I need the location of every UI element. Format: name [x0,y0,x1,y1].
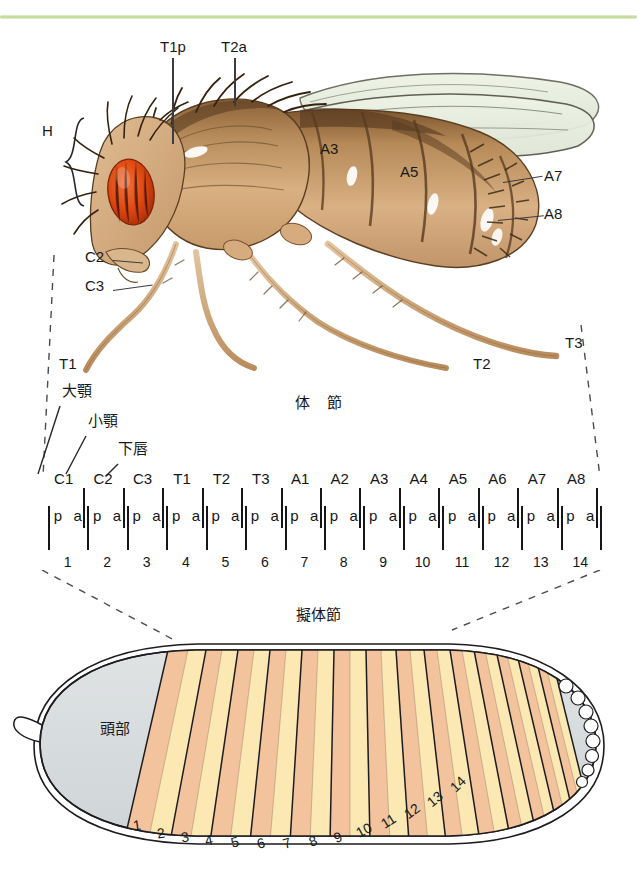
parasegment-number: 5 [213,554,237,570]
parasegment-number: 7 [292,554,316,570]
parasegment-boundary-tick [363,506,365,550]
embryo-parasegment-number: 14 [447,774,468,795]
embryo-parasegment-number: 7 [281,835,293,851]
segment-label-a4: A4 [399,470,438,487]
head-bracket-brace [62,116,88,212]
brace-icon [62,116,88,208]
parasegment-number: 11 [450,554,474,570]
parasegment-boundary-tick [127,506,129,550]
parasegment-boundary-tick [285,506,287,550]
parasegment-boundary-ticks [0,506,637,552]
embryo-parasegment-number: 4 [204,832,215,847]
embryo-parasegment-number: 13 [424,789,445,810]
segment-label-c3: C3 [123,470,162,487]
parasegment-number: 6 [253,554,277,570]
label-t2a: T2a [221,39,247,54]
segment-label-c1: C1 [44,470,83,487]
embryo-parasegment-number: 3 [180,829,190,844]
parasegment-boundary-tick [442,506,444,550]
parasegment-boundary-tick [403,506,405,550]
parasegment-boundary-tick [600,506,602,550]
segment-label-a8: A8 [557,470,596,487]
parasegment-number: 4 [174,554,198,570]
label-a8: A8 [544,206,562,221]
leader-t1p [172,58,174,144]
label-a3: A3 [320,141,338,156]
parasegment-number: 10 [411,554,435,570]
segment-label-t2: T2 [202,470,241,487]
top-accent-rule [0,15,637,19]
embryo-illustration: 頭部 1234567891011121314 [0,630,637,860]
parasegment-number: 1 [56,554,80,570]
segment-name-row: C1C2C3T1T2T3A1A2A3A4A5A6A7A8 [0,470,637,490]
parasegment-number: 8 [332,554,356,570]
segment-label-a6: A6 [478,470,517,487]
parasegment-number: 12 [489,554,513,570]
segment-label-t1: T1 [162,470,201,487]
parasegment-boundary-tick [521,506,523,550]
embryo-parasegment-number: 9 [331,829,344,845]
label-a7: A7 [544,168,562,183]
leader-t2a [234,58,236,106]
parasegment-number: 13 [529,554,553,570]
segment-label-c2: C2 [83,470,122,487]
segment-label-a2: A2 [320,470,359,487]
parasegment-number: 3 [135,554,159,570]
parasegment-boundary-tick [48,506,50,550]
label-a5: A5 [400,164,418,179]
embryo-parasegment-number: 2 [156,826,166,841]
embryo-parasegment-number: 12 [401,801,422,821]
label-head-bracket: H [42,123,53,138]
parasegment-boundary-tick [482,506,484,550]
embryo-parasegment-numbers: 1234567891011121314 [0,630,637,860]
parasegment-boundary-tick [245,506,247,550]
parasegment-boundary-tick [166,506,168,550]
figure-page: H T1p T2a A3 A5 A7 A8 C2 C3 T1 T2 T3 体 節… [0,0,637,892]
segment-ladder: C1C2C3T1T2T3A1A2A3A4A5A6A7A8 papapapapap… [0,470,637,580]
segment-label-a3: A3 [359,470,398,487]
embryo-parasegment-number: 5 [229,834,240,849]
segment-label-a5: A5 [438,470,477,487]
parasegment-boundary-tick [561,506,563,550]
segment-label-t3: T3 [241,470,280,487]
embryo-title: 擬体節 [0,608,637,623]
parasegment-number: 9 [371,554,395,570]
segment-label-a1: A1 [281,470,320,487]
parasegment-number: 2 [95,554,119,570]
segment-label-a7: A7 [517,470,556,487]
embryo-parasegment-number: 6 [255,835,266,851]
parasegment-number: 14 [568,554,592,570]
parasegment-boundary-tick [324,506,326,550]
label-t1p: T1p [160,39,186,54]
embryo-parasegment-number: 10 [354,820,374,840]
parasegment-boundary-tick [87,506,89,550]
embryo-parasegment-number: 8 [307,833,319,849]
parasegment-boundary-tick [206,506,208,550]
embryo-parasegment-number: 11 [378,811,398,831]
embryo-parasegment-number: 1 [132,818,142,833]
